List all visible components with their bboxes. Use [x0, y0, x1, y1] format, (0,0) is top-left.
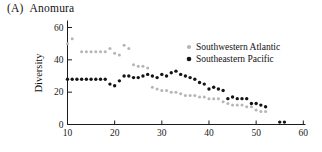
y-axis-ticks: 0204060 [54, 23, 72, 130]
legend-label-sw-atlantic: Southwestern Atlantic [196, 41, 280, 53]
legend-marker-sw-atlantic-icon [186, 44, 192, 50]
x-axis-ticks: 102030405060 [63, 121, 309, 138]
svg-text:20: 20 [54, 87, 64, 97]
svg-text:60: 60 [299, 128, 309, 138]
figure-panel: (A)Anomura Diversity 0204060 10203040506… [0, 0, 322, 152]
svg-text:50: 50 [251, 128, 261, 138]
svg-text:40: 40 [54, 55, 64, 65]
svg-text:10: 10 [63, 128, 73, 138]
legend-label-se-pacific: Southeastern Pacific [196, 53, 274, 65]
scatter-plot: 0204060 102030405060 [0, 0, 322, 152]
svg-text:20: 20 [110, 128, 120, 138]
svg-text:60: 60 [54, 23, 64, 33]
svg-text:30: 30 [157, 128, 167, 138]
legend-item-sw-atlantic: Southwestern Atlantic [186, 41, 280, 53]
legend: Southwestern Atlantic Southeastern Pacif… [186, 41, 280, 65]
legend-item-se-pacific: Southeastern Pacific [186, 53, 280, 65]
series-southeastern-pacific [66, 69, 286, 123]
legend-marker-se-pacific-icon [186, 56, 192, 62]
axes [68, 21, 306, 125]
svg-text:40: 40 [204, 128, 214, 138]
